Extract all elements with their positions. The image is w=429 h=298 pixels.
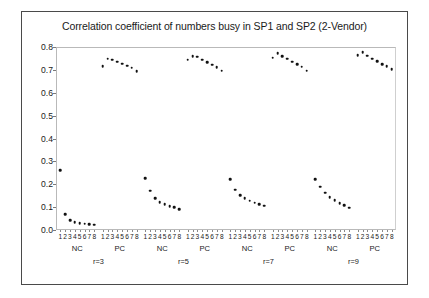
x-tick-label: 6 xyxy=(380,233,384,240)
x-tick-mark xyxy=(165,230,166,232)
data-point xyxy=(386,65,389,68)
data-point xyxy=(93,223,96,226)
data-point xyxy=(253,201,256,204)
x-panel-label: PC xyxy=(284,244,295,253)
x-tick-label: 7 xyxy=(88,233,92,240)
x-group-label: r=5 xyxy=(178,257,189,266)
x-tick-label: 3 xyxy=(323,233,327,240)
x-tick-label: 7 xyxy=(300,233,304,240)
x-tick-label: 5 xyxy=(248,233,252,240)
data-point xyxy=(121,62,124,65)
data-point xyxy=(343,204,346,207)
x-tick-label: 6 xyxy=(295,233,299,240)
x-group-label: r=7 xyxy=(263,257,274,266)
x-tick-label: 3 xyxy=(153,233,157,240)
x-tick-mark xyxy=(320,230,321,232)
data-point xyxy=(229,178,232,181)
x-tick-mark xyxy=(377,230,378,232)
data-point xyxy=(154,197,157,200)
data-point xyxy=(333,199,336,202)
y-tick-mark xyxy=(53,184,56,185)
x-tick-label: 6 xyxy=(168,233,172,240)
data-point xyxy=(301,66,304,69)
data-point xyxy=(111,59,114,62)
y-tick-label: 0.3 xyxy=(41,156,53,166)
x-tick-label: 2 xyxy=(276,233,280,240)
y-tick-mark xyxy=(53,139,56,140)
x-tick-mark xyxy=(94,230,95,232)
x-tick-mark xyxy=(145,230,146,232)
data-point xyxy=(366,54,369,57)
x-tick-label: 6 xyxy=(83,233,87,240)
x-group-label: r=3 xyxy=(93,257,104,266)
x-tick-label: 5 xyxy=(163,233,167,240)
x-panel-label: PC xyxy=(369,244,380,253)
x-tick-label: 8 xyxy=(135,233,139,240)
x-tick-mark xyxy=(127,230,128,232)
x-tick-label: 3 xyxy=(111,233,115,240)
x-tick-mark xyxy=(150,230,151,232)
x-tick-label: 4 xyxy=(158,233,162,240)
x-tick-mark xyxy=(240,230,241,232)
x-tick-label: 2 xyxy=(233,233,237,240)
x-tick-label: 7 xyxy=(215,233,219,240)
data-point xyxy=(314,178,317,181)
x-tick-mark xyxy=(207,230,208,232)
x-tick-label: 5 xyxy=(120,233,124,240)
x-tick-mark xyxy=(315,230,316,232)
data-point xyxy=(173,206,176,209)
x-panel-label: NC xyxy=(327,244,338,253)
y-tick-label: 0.7 xyxy=(41,65,53,75)
chart-title: Correlation coefficient of numbers busy … xyxy=(22,20,407,32)
y-tick-label: 0.8 xyxy=(41,42,53,52)
x-tick-label: 8 xyxy=(390,233,394,240)
y-tick-label: 0.1 xyxy=(41,202,53,212)
x-tick-mark xyxy=(60,230,61,232)
x-tick-label: 4 xyxy=(73,233,77,240)
data-point xyxy=(248,199,251,202)
x-tick-mark xyxy=(112,230,113,232)
data-point xyxy=(144,177,147,180)
data-point xyxy=(191,55,194,58)
x-tick-label: 2 xyxy=(361,233,365,240)
data-point xyxy=(371,57,374,60)
y-axis-labels: 0.00.10.20.30.40.50.60.70.8 xyxy=(22,12,53,286)
x-tick-mark xyxy=(287,230,288,232)
x-tick-mark xyxy=(358,230,359,232)
data-point xyxy=(291,61,294,64)
x-tick-mark xyxy=(217,230,218,232)
x-tick-label: 1 xyxy=(101,233,105,240)
x-panel-label: NC xyxy=(157,244,168,253)
x-tick-mark xyxy=(335,230,336,232)
x-tick-label: 7 xyxy=(258,233,262,240)
x-tick-label: 7 xyxy=(173,233,177,240)
x-tick-mark xyxy=(259,230,260,232)
data-point xyxy=(319,185,322,188)
x-tick-label: 6 xyxy=(125,233,129,240)
x-tick-label: 7 xyxy=(385,233,389,240)
x-tick-label: 7 xyxy=(343,233,347,240)
data-point xyxy=(74,221,77,224)
x-group-label: r=9 xyxy=(348,257,359,266)
x-tick-label: 8 xyxy=(177,233,181,240)
data-point xyxy=(216,66,219,69)
x-tick-mark xyxy=(89,230,90,232)
data-point xyxy=(329,196,332,199)
x-tick-label: 2 xyxy=(318,233,322,240)
x-tick-label: 4 xyxy=(200,233,204,240)
x-tick-mark xyxy=(137,230,138,232)
x-tick-mark xyxy=(387,230,388,232)
x-tick-mark xyxy=(307,230,308,232)
y-tick-mark xyxy=(53,230,56,231)
x-tick-mark xyxy=(302,230,303,232)
x-tick-label: 6 xyxy=(338,233,342,240)
x-tick-label: 3 xyxy=(68,233,72,240)
x-tick-label: 1 xyxy=(58,233,62,240)
x-tick-label: 4 xyxy=(370,233,374,240)
data-point xyxy=(69,219,72,222)
x-tick-mark xyxy=(340,230,341,232)
data-point xyxy=(206,61,209,64)
x-panel-label: NC xyxy=(72,244,83,253)
data-point xyxy=(390,68,393,71)
data-point xyxy=(276,52,279,55)
